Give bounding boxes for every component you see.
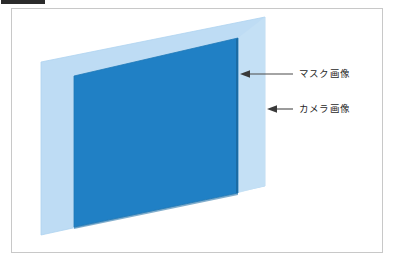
mask-image-label: マスク画像 — [299, 68, 350, 80]
figure-frame-border — [11, 8, 383, 253]
camera-image-label: カメラ画像 — [299, 103, 350, 115]
top-cropped-strip — [1, 0, 45, 4]
figure-root: マスク画像 カメラ画像 — [0, 0, 394, 264]
